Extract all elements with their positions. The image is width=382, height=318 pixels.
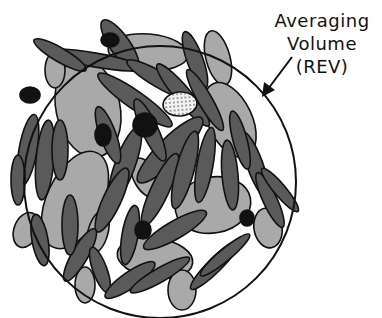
- rev-label-line-3: (REV): [262, 56, 382, 78]
- rev-label-line-1: Averaging: [262, 10, 382, 32]
- rev-label-line-2: Volume: [262, 33, 382, 55]
